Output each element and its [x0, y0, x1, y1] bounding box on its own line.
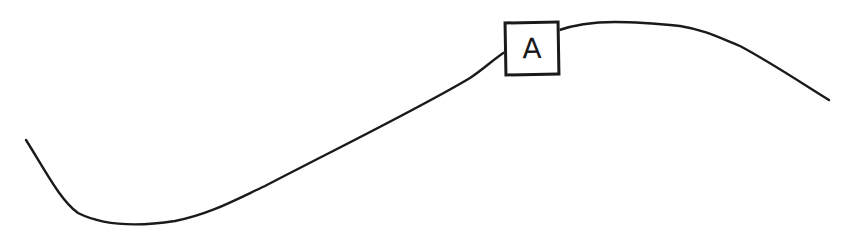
curve-left-segment [26, 52, 505, 224]
point-a-marker: A [504, 21, 561, 77]
curve-right-segment [556, 22, 829, 100]
diagram-canvas [0, 0, 845, 238]
point-a-label: A [522, 32, 542, 65]
